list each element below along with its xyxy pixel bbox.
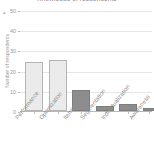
bar-individualization[interactable]	[119, 104, 137, 111]
y-tick-mark	[18, 112, 20, 113]
x-tick-mark	[105, 112, 106, 114]
plot-area	[20, 11, 152, 112]
bar-segmentation[interactable]	[96, 106, 114, 111]
x-tick-mark	[81, 112, 82, 114]
x-tick-mark	[149, 112, 150, 114]
x-tick-mark	[58, 112, 59, 114]
bar-performance[interactable]	[25, 62, 43, 111]
y-axis-arrow-icon: ▴	[3, 10, 6, 15]
bar-itemization[interactable]	[72, 90, 90, 111]
gridline	[20, 11, 152, 12]
gridline	[20, 31, 152, 32]
y-axis-title: Number of respondents	[4, 25, 10, 97]
gridline	[20, 51, 152, 52]
x-tick-mark	[128, 112, 129, 114]
bar-chart: Knowledge of respondents ▴ Number of res…	[0, 0, 154, 160]
chart-title: Knowledge of respondents	[0, 0, 154, 1]
x-tick-mark	[34, 112, 35, 114]
x-axis-line	[20, 111, 152, 112]
bar-awareness[interactable]	[143, 108, 154, 111]
y-tick-label: 0	[2, 109, 16, 115]
bar-optimization[interactable]	[49, 60, 67, 111]
